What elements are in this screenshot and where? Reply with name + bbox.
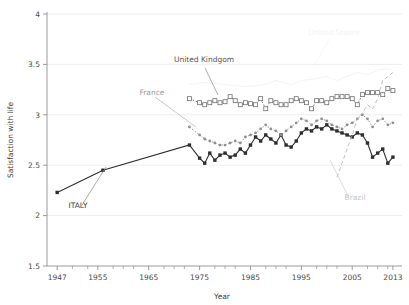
data-point [325, 123, 328, 126]
y-tick-label: 1.5 [28, 262, 40, 271]
data-point [392, 121, 395, 124]
data-point [198, 134, 201, 137]
data-point [386, 123, 389, 126]
data-point [213, 99, 217, 103]
data-point [213, 158, 216, 161]
data-point [376, 151, 379, 154]
data-point [233, 99, 237, 103]
data-point [198, 156, 201, 159]
data-point [345, 95, 349, 99]
data-point [259, 139, 262, 142]
data-point [315, 99, 319, 103]
x-tick-label: 2013 [383, 273, 402, 282]
data-point [330, 97, 334, 101]
chart-container: 1.522.533.54 194719551965197519851995200… [0, 0, 409, 305]
data-point [55, 191, 58, 194]
data-point [264, 133, 267, 136]
data-point [244, 136, 247, 139]
series-line [337, 73, 393, 178]
data-point [290, 125, 293, 128]
data-point [269, 99, 273, 103]
data-point [340, 131, 343, 134]
data-point [310, 107, 314, 111]
data-point [391, 89, 395, 93]
leader-line-uk [205, 68, 218, 95]
data-point [239, 147, 242, 150]
data-point [259, 128, 262, 131]
data-point [366, 141, 369, 144]
data-point [243, 101, 247, 105]
data-point [238, 103, 242, 107]
data-point [371, 91, 375, 95]
data-point [264, 123, 267, 126]
data-point [239, 142, 242, 145]
data-point [254, 135, 257, 138]
data-point [340, 95, 344, 99]
data-point [188, 125, 191, 128]
data-point [381, 147, 384, 150]
data-point [295, 139, 298, 142]
data-point [381, 93, 385, 97]
data-point [223, 151, 226, 154]
gridlines [47, 14, 402, 216]
annotation-united-states: United States [309, 28, 360, 37]
x-tick-label: 1947 [48, 273, 67, 282]
y-tick-label: 2 [35, 211, 40, 220]
series-brazil [337, 73, 393, 178]
data-point [234, 140, 237, 143]
data-point [345, 133, 348, 136]
data-point [223, 100, 227, 104]
y-axis-ticks: 1.522.533.54 [28, 10, 47, 271]
x-axis-title: Year [213, 292, 231, 301]
series-line [189, 68, 393, 86]
y-tick-label: 3.5 [28, 60, 40, 69]
data-point [315, 125, 318, 128]
data-point [295, 121, 298, 124]
data-point [264, 107, 268, 111]
data-point [350, 97, 354, 101]
x-tick-label: 1995 [292, 273, 311, 282]
y-tick-label: 4 [35, 10, 40, 19]
data-point [274, 141, 277, 144]
satisfaction-with-life-line-chart: 1.522.533.54 194719551965197519851995200… [0, 0, 409, 305]
data-point [213, 142, 216, 145]
x-tick-label: 1975 [190, 273, 209, 282]
data-series-layer [55, 68, 394, 194]
data-point [254, 103, 258, 107]
data-point [325, 101, 329, 105]
data-point [203, 103, 207, 107]
data-point [330, 123, 333, 126]
data-point [228, 155, 231, 158]
data-point [361, 133, 364, 136]
data-point [275, 130, 278, 133]
data-point [285, 130, 288, 133]
data-point [208, 151, 211, 154]
data-point [284, 143, 287, 146]
leader-line-italy [82, 167, 106, 205]
data-point [310, 123, 313, 126]
data-point [187, 97, 191, 101]
series-france [188, 113, 394, 146]
annotation-united-kingdom: United Kindgom [174, 55, 234, 64]
data-point [335, 95, 339, 99]
data-point [320, 99, 324, 103]
data-point [391, 155, 394, 158]
data-point [274, 101, 278, 105]
data-point [371, 155, 374, 158]
data-point [336, 125, 339, 128]
data-point [305, 119, 308, 122]
data-point [198, 101, 202, 105]
series-line [57, 125, 393, 192]
leader-line-united-states [314, 38, 330, 66]
data-point [244, 151, 247, 154]
series-united-kindgom [187, 87, 394, 111]
data-point [234, 153, 237, 156]
x-axis-ticks: 19471955196519751985199520052013 [48, 266, 403, 282]
annotation-brazil: Brazil [345, 193, 366, 202]
data-point [228, 95, 232, 99]
data-point [279, 103, 283, 107]
x-tick-label: 2005 [343, 273, 362, 282]
data-point [346, 123, 349, 126]
data-point [335, 129, 338, 132]
data-point [315, 119, 318, 122]
